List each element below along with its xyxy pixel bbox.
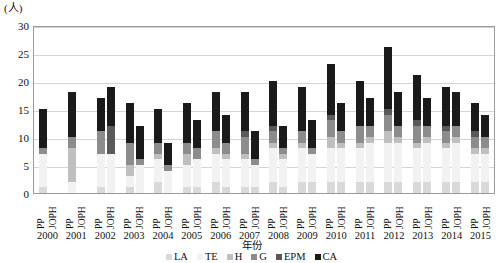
- segment-CA: [442, 87, 450, 126]
- bar-2015-JOPH[interactable]: [481, 115, 489, 193]
- segment-TE: [269, 148, 277, 182]
- x-tick-2000-PP: PP: [36, 195, 46, 229]
- segment-CA: [356, 81, 364, 126]
- segment-TE: [136, 165, 144, 193]
- bar-2009-JOPH[interactable]: [308, 120, 316, 193]
- x-tick-2006-PP: PP: [210, 195, 220, 229]
- x-label-group-2002: PPJOPH: [91, 195, 120, 231]
- segment-TE: [384, 143, 392, 182]
- x-tick-2011-JOPH: JOPH: [366, 195, 376, 229]
- y-tick-20: 20: [18, 77, 29, 88]
- bar-2002-PP[interactable]: [97, 98, 105, 193]
- segment-LA: [384, 182, 392, 193]
- bar-2003-PP[interactable]: [126, 103, 134, 193]
- year-group-2000: [34, 27, 63, 193]
- x-label-group-2014: PPJOPH: [437, 195, 466, 231]
- segment-TE: [241, 159, 249, 187]
- bar-2014-JOPH[interactable]: [452, 92, 460, 193]
- segment-EPM: [107, 126, 115, 154]
- y-tick-25: 25: [18, 49, 29, 60]
- segment-CA: [68, 92, 76, 137]
- bar-2010-PP[interactable]: [327, 64, 335, 193]
- segment-TE: [452, 143, 460, 182]
- bar-2012-JOPH[interactable]: [394, 92, 402, 193]
- x-tick-2012-PP: PP: [383, 195, 393, 229]
- bar-2005-PP[interactable]: [183, 103, 191, 193]
- segment-LA: [154, 182, 162, 193]
- legend-item-EPM[interactable]: EPM: [276, 251, 306, 262]
- bar-2008-JOPH[interactable]: [279, 126, 287, 193]
- legend-item-TE[interactable]: TE: [197, 251, 218, 262]
- segment-CA: [308, 120, 316, 148]
- bar-2010-JOPH[interactable]: [337, 103, 345, 193]
- bar-2000-PP[interactable]: [39, 109, 47, 193]
- segment-CA: [154, 109, 162, 143]
- year-group-2007: [235, 27, 264, 193]
- x-label-group-2013: PPJOPH: [408, 195, 437, 231]
- year-group-2003: [120, 27, 149, 193]
- bar-2005-JOPH[interactable]: [193, 120, 201, 193]
- x-label-group-2006: PPJOPH: [206, 195, 235, 231]
- year-group-2011: [350, 27, 379, 193]
- x-label-group-2012: PPJOPH: [380, 195, 409, 231]
- segment-G: [327, 120, 335, 137]
- bar-2008-PP[interactable]: [269, 81, 277, 193]
- segment-CA: [337, 103, 345, 131]
- segment-TE: [413, 148, 421, 182]
- year-group-2012: [379, 27, 408, 193]
- x-tick-2008-PP: PP: [267, 195, 277, 229]
- segment-LA: [39, 187, 47, 193]
- segment-CA: [193, 120, 201, 148]
- legend-label-EPM: EPM: [284, 251, 306, 262]
- segment-TE: [308, 154, 316, 182]
- year-group-2009: [293, 27, 322, 193]
- bar-2007-JOPH[interactable]: [251, 131, 259, 193]
- x-label-group-2008: PPJOPH: [264, 195, 293, 231]
- segment-CA: [251, 131, 259, 159]
- segment-LA: [222, 187, 230, 193]
- legend-item-LA[interactable]: LA: [166, 251, 188, 262]
- x-tick-2009-JOPH: JOPH: [308, 195, 318, 229]
- year-group-2013: [408, 27, 437, 193]
- year-group-2006: [207, 27, 236, 193]
- bar-2004-PP[interactable]: [154, 109, 162, 193]
- bar-2003-JOPH[interactable]: [136, 126, 144, 193]
- segment-G: [154, 143, 162, 154]
- segment-CA: [279, 126, 287, 148]
- segment-G: [126, 143, 134, 165]
- bar-2009-PP[interactable]: [298, 87, 306, 193]
- bar-2014-PP[interactable]: [442, 87, 450, 193]
- x-tick-2005-JOPH: JOPH: [193, 195, 203, 229]
- segment-TE: [222, 159, 230, 187]
- segment-TE: [154, 159, 162, 181]
- x-tick-2002-PP: PP: [94, 195, 104, 229]
- bar-2001-PP[interactable]: [68, 92, 76, 193]
- legend-item-G[interactable]: G: [251, 251, 267, 262]
- segment-G: [356, 126, 364, 143]
- segment-LA: [97, 187, 105, 193]
- bar-2011-PP[interactable]: [356, 81, 364, 193]
- segment-LA: [251, 187, 259, 193]
- segment-TE: [107, 154, 115, 193]
- bar-2013-JOPH[interactable]: [423, 98, 431, 193]
- x-label-group-2001: PPJOPH: [62, 195, 91, 231]
- bar-2012-PP[interactable]: [384, 47, 392, 193]
- segment-LA: [471, 182, 479, 193]
- bar-2004-JOPH[interactable]: [164, 143, 172, 193]
- bar-2013-PP[interactable]: [413, 75, 421, 193]
- legend-item-CA[interactable]: CA: [315, 251, 338, 262]
- legend-item-H[interactable]: H: [227, 251, 243, 262]
- legend-label-TE: TE: [205, 251, 218, 262]
- bar-2002-JOPH[interactable]: [107, 87, 115, 193]
- y-tick-5: 5: [24, 161, 30, 172]
- bar-2007-PP[interactable]: [241, 92, 249, 193]
- bar-2006-PP[interactable]: [212, 92, 220, 193]
- x-label-group-2003: PPJOPH: [120, 195, 149, 231]
- x-tick-2015-JOPH: JOPH: [482, 195, 492, 229]
- bar-2015-PP[interactable]: [471, 103, 479, 193]
- bar-2006-JOPH[interactable]: [222, 115, 230, 193]
- segment-CA: [298, 87, 306, 132]
- bar-2011-JOPH[interactable]: [366, 98, 374, 193]
- segment-G: [183, 143, 191, 154]
- segment-H: [327, 137, 335, 148]
